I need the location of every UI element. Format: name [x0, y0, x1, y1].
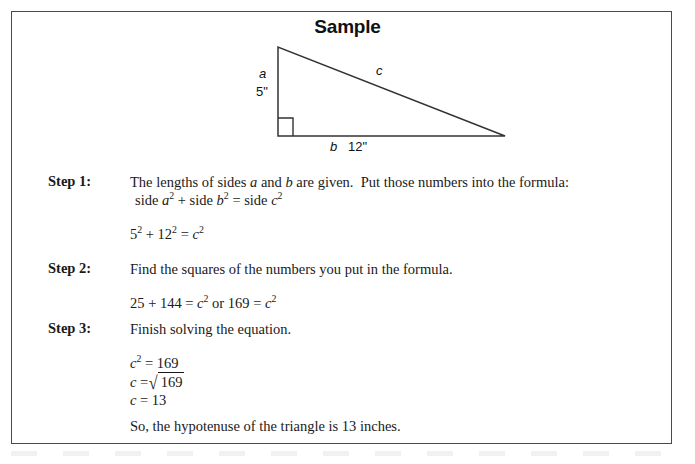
step-2-line-1: Find the squares of the numbers you put …: [130, 260, 640, 278]
square-root-icon: √169: [148, 372, 184, 391]
step-2-body: Find the squares of the numbers you put …: [130, 260, 640, 312]
step-3-equation-2: c =√169: [130, 372, 640, 391]
step-1-body: The lengths of sides a and b are given. …: [130, 173, 640, 243]
conclusion-text: So, the hypotenuse of the triangle is 13…: [130, 418, 401, 435]
step-1-equation: 52 + 122 = c2: [130, 225, 640, 243]
step-2-label: Step 2:: [48, 260, 91, 277]
radicand: 169: [158, 372, 185, 391]
page-title: Sample: [0, 16, 695, 38]
step-3-body: Finish solving the equation. c2 = 169 c …: [130, 320, 640, 409]
worksheet-page: Sample a 5" c b 12" Step 1: The lengths …: [0, 0, 695, 464]
step-1-line-1: The lengths of sides a and b are given. …: [130, 173, 640, 191]
step-3-equation-1: c2 = 169: [130, 354, 640, 372]
step-1-label: Step 1:: [48, 173, 91, 190]
page-bottom-artifact: [11, 451, 672, 456]
step-3-line-1: Finish solving the equation.: [130, 320, 640, 338]
step-1-line-2: side a2 + side b2 = side c2: [130, 191, 640, 209]
step-3-label: Step 3:: [48, 320, 91, 337]
step-2-equation: 25 + 144 = c2 or 169 = c2: [130, 294, 640, 312]
step-3-equation-3: c = 13: [130, 391, 640, 409]
